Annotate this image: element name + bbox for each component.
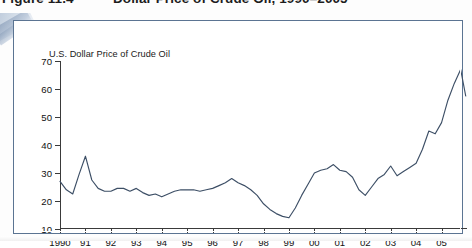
y-tick-label: 60 — [41, 84, 52, 95]
plot-area: 10203040506070 1990919293949596979899000… — [60, 61, 467, 229]
y-tick-label: 20 — [41, 196, 52, 207]
y-tick-label: 30 — [41, 168, 52, 179]
figure-number-label: Figure 11.4 — [2, 0, 74, 6]
y-tick-label: 50 — [41, 112, 52, 123]
page-bottom-edge — [0, 236, 472, 241]
figure-frame: U.S. Dollar Price of Crude Oil 102030405… — [13, 20, 463, 234]
chart-axis-title: U.S. Dollar Price of Crude Oil — [49, 49, 170, 59]
figure-title-label: Dollar Price of Crude Oil, 1990–2005 — [113, 0, 348, 6]
y-tick-label: 70 — [41, 56, 52, 67]
y-tick-label: 10 — [41, 224, 52, 235]
price-line-series — [60, 61, 467, 229]
figure-caption: Figure 11.4 Dollar Price of Crude Oil, 1… — [0, 0, 472, 16]
y-tick-label: 40 — [41, 140, 52, 151]
